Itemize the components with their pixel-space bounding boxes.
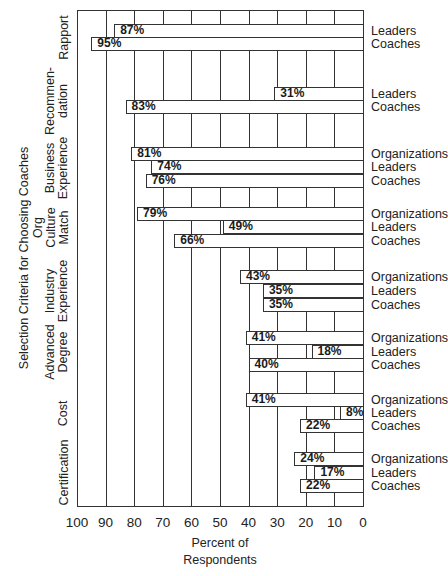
x-tick-40: 40: [241, 515, 256, 530]
x-axis-title: Percent of Respondents: [160, 535, 280, 569]
bar-value-label: 74%: [157, 160, 181, 173]
bar-industry-experience-coaches: 35%: [263, 298, 364, 312]
bar-value-label: 22%: [306, 419, 330, 432]
bar-value-label: 35%: [269, 284, 293, 297]
bar-advanced-degree-leaders: 18%: [312, 345, 364, 359]
x-tick-90: 90: [98, 515, 113, 530]
bar-value-label: 95%: [97, 37, 121, 50]
category-label-business-experience: BusinessExperience: [44, 136, 70, 199]
x-axis-title-line2: Respondents: [160, 552, 280, 569]
bar-industry-experience-organizations: 43%: [240, 270, 364, 284]
bar-value-label: 76%: [152, 174, 176, 187]
series-label-leaders: Leaders: [371, 221, 416, 234]
series-label-organizations: Organizations: [371, 271, 448, 284]
series-label-coaches: Coaches: [371, 38, 420, 51]
bar-industry-experience-leaders: 35%: [263, 284, 364, 298]
series-label-coaches: Coaches: [371, 175, 420, 188]
series-label-coaches: Coaches: [371, 359, 420, 372]
series-label-coaches: Coaches: [371, 101, 420, 114]
bar-business-experience-coaches: 76%: [146, 174, 364, 188]
bar-cost-coaches: 22%: [300, 419, 364, 433]
bar-value-label: 24%: [300, 452, 324, 465]
bar-recommendation-leaders: 31%: [274, 87, 364, 101]
gridline-80: [134, 10, 135, 507]
series-label-coaches: Coaches: [371, 299, 420, 312]
bar-value-label: 43%: [246, 270, 270, 283]
category-label-advanced-degree: AdvancedDegree: [44, 324, 70, 380]
series-label-coaches: Coaches: [371, 235, 420, 248]
x-tick-0: 0: [359, 515, 367, 530]
series-label-coaches: Coaches: [371, 480, 420, 493]
bar-value-label: 8%: [346, 406, 363, 419]
bar-value-label: 66%: [180, 234, 204, 247]
bar-value-label: 41%: [252, 331, 276, 344]
category-label-certification: Certification: [57, 440, 70, 506]
series-label-organizations: Organizations: [371, 332, 448, 345]
gridline-70: [163, 10, 164, 507]
bar-rapport-coaches: 95%: [91, 37, 364, 51]
bar-value-label: 18%: [318, 345, 342, 358]
bar-certification-coaches: 22%: [300, 479, 364, 493]
bar-value-label: 79%: [143, 207, 167, 220]
gridline-50: [220, 10, 221, 507]
gridline-30: [277, 10, 278, 507]
bar-value-label: 41%: [252, 393, 276, 406]
bar-advanced-degree-organizations: 41%: [246, 331, 364, 345]
series-label-organizations: Organizations: [371, 453, 448, 466]
bar-advanced-degree-coaches: 40%: [249, 358, 364, 372]
bar-certification-organizations: 24%: [294, 452, 364, 466]
x-tick-30: 30: [270, 515, 285, 530]
bar-org-culture-match-leaders: 49%: [223, 220, 364, 234]
x-tick-80: 80: [127, 515, 142, 530]
bar-business-experience-leaders: 74%: [151, 160, 364, 174]
bar-value-label: 35%: [269, 298, 293, 311]
series-label-leaders: Leaders: [371, 161, 416, 174]
bar-org-culture-match-coaches: 66%: [174, 234, 364, 248]
bar-recommendation-coaches: 83%: [126, 100, 364, 114]
x-tick-60: 60: [184, 515, 199, 530]
y-axis-title: Selection Criteria for Choosing Coaches: [17, 147, 31, 369]
series-label-coaches: Coaches: [371, 420, 420, 433]
category-label-industry-experience: IndustryExperience: [44, 260, 70, 323]
gridline-40: [249, 10, 250, 507]
bar-value-label: 22%: [306, 479, 330, 492]
bar-value-label: 40%: [255, 358, 279, 371]
bar-rapport-leaders: 87%: [114, 24, 364, 38]
bar-value-label: 31%: [280, 87, 304, 100]
category-label-cost: Cost: [57, 400, 70, 426]
bar-cost-leaders: 8%: [340, 406, 364, 420]
bar-value-label: 49%: [229, 220, 253, 233]
x-tick-10: 10: [327, 515, 342, 530]
x-tick-20: 20: [298, 515, 313, 530]
gridline-60: [191, 10, 192, 507]
x-tick-100: 100: [66, 515, 89, 530]
x-tick-70: 70: [155, 515, 170, 530]
gridline-90: [106, 10, 107, 507]
category-label-org-culture-match: OrgCultureMatch: [31, 207, 70, 247]
gridline-100: [77, 10, 78, 507]
category-label-recommendation: Recommen-dation: [44, 66, 70, 134]
category-label-rapport: Rapport: [57, 15, 70, 59]
bar-value-label: 87%: [120, 24, 144, 37]
bar-value-label: 83%: [132, 100, 156, 113]
x-axis-title-line1: Percent of: [160, 535, 280, 552]
series-label-leaders: Leaders: [371, 285, 416, 298]
x-tick-50: 50: [212, 515, 227, 530]
